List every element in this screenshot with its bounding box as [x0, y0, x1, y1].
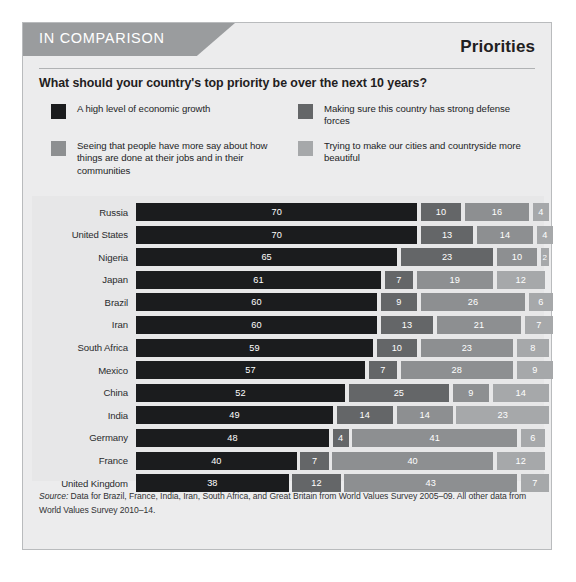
bar-segment: 19	[417, 271, 493, 289]
bar-row-label: China	[32, 387, 136, 398]
bar-segment: 6	[529, 293, 553, 311]
bar-segment: 16	[465, 203, 529, 221]
bar-segment: 14	[493, 384, 549, 402]
bar-row-segments: 4074012	[136, 452, 544, 470]
bar-segment: 4	[533, 203, 549, 221]
bar-row-label: Brazil	[32, 297, 136, 308]
banner-label: IN COMPARISON	[39, 30, 165, 46]
bar-segment: 70	[136, 203, 417, 221]
bar-segment: 23	[401, 248, 493, 266]
bar-segment: 10	[377, 339, 417, 357]
bar-segment: 21	[437, 316, 521, 334]
bar-row-label: Russia	[32, 207, 136, 218]
chart-panel: Russia7010164United States7013144Nigeria…	[32, 196, 544, 481]
legend-swatch-icon	[51, 104, 66, 119]
bar-segment: 14	[397, 406, 453, 424]
bar-row: Iran6013217	[32, 316, 544, 334]
bar-row-label: Japan	[32, 274, 136, 285]
bar-row-segments: 7013144	[136, 226, 544, 244]
bar-segment: 40	[332, 452, 493, 470]
bar-segment: 9	[517, 361, 553, 379]
bar-segment: 8	[517, 339, 549, 357]
bar-row-label: France	[32, 455, 136, 466]
bar-row: Germany484416	[32, 429, 544, 447]
bar-segment: 14	[477, 226, 533, 244]
legend-label: Seeing that people have more say about h…	[77, 140, 282, 177]
bar-row-segments: 6171912	[136, 271, 544, 289]
page-title: Priorities	[460, 37, 535, 57]
bar-segment: 28	[401, 361, 514, 379]
source-note: Source: Data for Brazil, France, India, …	[39, 490, 537, 517]
legend-swatch-icon	[298, 104, 313, 119]
bar-row-segments: 577289	[136, 361, 544, 379]
legend-label: Trying to make our cities and countrysid…	[324, 140, 531, 165]
bar-row: China5225914	[32, 384, 544, 402]
bar-segment: 13	[381, 316, 433, 334]
source-text: Data for Brazil, France, India, Iran, So…	[39, 491, 526, 515]
bar-segment: 23	[421, 339, 513, 357]
bar-segment: 10	[497, 248, 537, 266]
legend-swatch-icon	[298, 141, 313, 156]
bar-row-label: South Africa	[32, 342, 136, 353]
bar-segment: 4	[537, 226, 553, 244]
bar-segment: 57	[136, 361, 365, 379]
bar-segment: 41	[352, 429, 517, 447]
card-header: IN COMPARISON Priorities	[23, 23, 551, 69]
bar-row-segments: 49141423	[136, 406, 544, 424]
bar-segment: 9	[453, 384, 489, 402]
bar-segment: 7	[385, 271, 413, 289]
bar-row-segments: 6013217	[136, 316, 544, 334]
bar-row-label: India	[32, 410, 136, 421]
legend-item: A high level of economic growth	[39, 103, 288, 128]
bar-row-segments: 609266	[136, 293, 544, 311]
bar-segment: 9	[381, 293, 417, 311]
bar-row: Russia7010164	[32, 203, 544, 221]
bar-segment: 26	[421, 293, 525, 311]
legend-label: A high level of economic growth	[77, 103, 210, 115]
bar-segment: 12	[497, 271, 545, 289]
bar-segment: 7	[369, 361, 397, 379]
bar-segment: 12	[497, 452, 545, 470]
bar-row-label: Iran	[32, 319, 136, 330]
bar-row: South Africa5910238	[32, 339, 544, 357]
bar-row: Nigeria6523102	[32, 248, 544, 266]
legend-item: Seeing that people have more say about h…	[39, 140, 288, 177]
bar-segment: 13	[421, 226, 473, 244]
chart-question: What should your country's top priority …	[39, 76, 427, 90]
bar-row-segments: 7010164	[136, 203, 544, 221]
bar-row-label: United Kingdom	[32, 478, 136, 489]
bar-row-label: United States	[32, 229, 136, 240]
bar-row: Japan6171912	[32, 271, 544, 289]
chart-legend: A high level of economic growthMaking su…	[39, 103, 537, 189]
bar-segment: 14	[337, 406, 393, 424]
bar-segment: 65	[136, 248, 397, 266]
bar-segment: 6	[521, 429, 545, 447]
bar-rows: Russia7010164United States7013144Nigeria…	[32, 203, 544, 497]
source-prefix: Source:	[39, 491, 68, 501]
bar-segment: 59	[136, 339, 373, 357]
infographic-card: IN COMPARISON Priorities What should you…	[22, 22, 552, 550]
bar-segment: 70	[136, 226, 417, 244]
bar-segment: 60	[136, 316, 377, 334]
bar-row: India49141423	[32, 406, 544, 424]
bar-row-label: Nigeria	[32, 252, 136, 263]
bar-segment: 25	[349, 384, 449, 402]
legend-item: Trying to make our cities and countrysid…	[288, 140, 537, 177]
bar-segment: 7	[525, 316, 553, 334]
bar-row-label: Germany	[32, 432, 136, 443]
legend-label: Making sure this country has strong defe…	[324, 103, 531, 128]
bar-segment: 61	[136, 271, 381, 289]
bar-row-segments: 5225914	[136, 384, 544, 402]
header-divider	[39, 68, 535, 69]
bar-segment: 2	[541, 248, 549, 266]
bar-row: United States7013144	[32, 226, 544, 244]
bar-segment: 60	[136, 293, 377, 311]
bar-segment: 52	[136, 384, 345, 402]
bar-segment: 7	[300, 452, 328, 470]
legend-item: Making sure this country has strong defe…	[288, 103, 537, 128]
bar-row: Brazil609266	[32, 293, 544, 311]
bar-segment: 49	[136, 406, 333, 424]
legend-swatch-icon	[51, 141, 66, 156]
bar-row-segments: 5910238	[136, 339, 544, 357]
bar-row: Mexico577289	[32, 361, 544, 379]
